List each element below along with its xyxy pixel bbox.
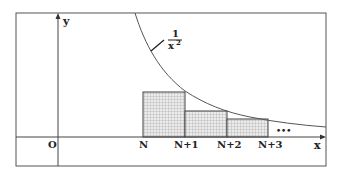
tick-label-n-plus-2: N+2 — [217, 139, 242, 150]
y-axis-arrow-icon — [56, 13, 61, 19]
riemann-rectangles — [143, 92, 268, 137]
curve-label-pointer — [151, 40, 164, 51]
ellipsis: ••• — [276, 125, 291, 135]
diagram-canvas: 1 x 2 y x O N N+1 N+2 N+3 ••• — [0, 0, 338, 176]
tick-label-n-plus-3: N+3 — [258, 139, 283, 150]
x-axis-arrow-icon — [320, 135, 326, 140]
origin-label: O — [48, 139, 57, 150]
curve-label-exponent: 2 — [176, 38, 181, 47]
rectangle-1 — [143, 92, 185, 137]
rectangle-3 — [227, 119, 268, 137]
tick-label-n: N — [139, 139, 148, 150]
rectangle-2 — [185, 111, 227, 137]
tick-label-n-plus-1: N+1 — [174, 139, 198, 150]
x-axis-label: x — [314, 139, 321, 152]
curve-label-denominator: x — [168, 40, 175, 51]
y-axis-label: y — [62, 15, 70, 28]
